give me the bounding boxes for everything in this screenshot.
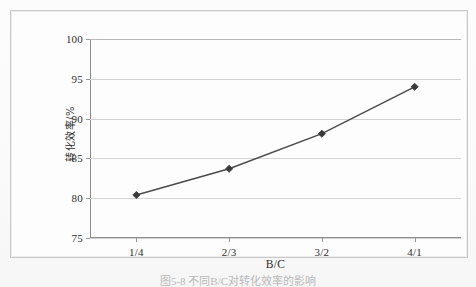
data-point-marker	[318, 130, 325, 137]
figure-frame: 转化效率/% 7580859095100 1/42/33/24/1 B/C	[10, 10, 468, 258]
y-tick-mark	[86, 238, 90, 239]
x-tick-mark	[322, 238, 323, 242]
plot-area: 7580859095100 1/42/33/24/1	[90, 39, 461, 238]
y-tick-label: 80	[72, 192, 83, 204]
x-tick-mark	[229, 238, 230, 242]
series-markers	[133, 83, 418, 198]
y-tick-label: 90	[72, 113, 83, 125]
data-point-marker	[226, 165, 233, 172]
y-tick-label: 95	[72, 73, 83, 85]
x-tick-label: 4/1	[407, 246, 422, 258]
y-tick-label: 100	[66, 33, 83, 45]
data-series-line	[90, 39, 461, 238]
data-point-marker	[133, 191, 140, 198]
y-tick-label: 75	[72, 232, 83, 244]
data-point-marker	[411, 83, 418, 90]
x-tick-label: 1/4	[129, 246, 144, 258]
x-tick-mark	[415, 238, 416, 242]
x-tick-label: 2/3	[222, 246, 237, 258]
x-axis-title: B/C	[90, 258, 461, 270]
series-polyline	[136, 87, 414, 195]
x-tick-label: 3/2	[315, 246, 330, 258]
gridline	[90, 238, 461, 239]
figure-caption: 图5-8 不同B/C对转化效率的影响	[0, 272, 476, 287]
x-tick-mark	[136, 238, 137, 242]
page-background: 转化效率/% 7580859095100 1/42/33/24/1 B/C 图5…	[0, 0, 476, 287]
y-tick-label: 85	[72, 152, 83, 164]
